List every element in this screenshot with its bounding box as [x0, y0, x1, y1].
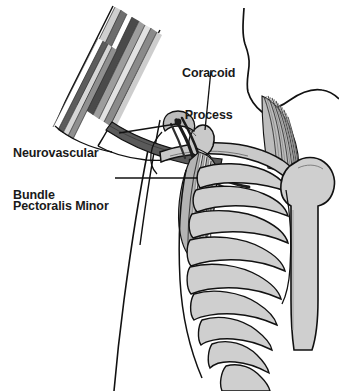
label-pectoralis-minor: Pectoralis Minor [13, 171, 109, 241]
label-coracoid-process: Coracoid Process [182, 38, 235, 150]
label-coracoid-line2: Process [182, 108, 235, 122]
label-coracoid-line1: Coracoid [182, 66, 235, 80]
anatomy-figure: Coracoid Process Neurovascular Bundle Pe… [0, 0, 339, 391]
label-neurovascular-line1: Neurovascular [13, 146, 99, 160]
label-pectoralis-line1: Pectoralis Minor [13, 199, 109, 213]
